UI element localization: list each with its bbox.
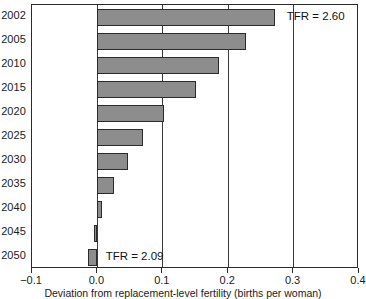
bar-row xyxy=(32,77,357,101)
y-tick-label-2030: 2030 xyxy=(0,154,26,165)
bar-row xyxy=(32,197,357,221)
x-tick-mark-4 xyxy=(292,268,293,273)
x-tick-label-4: 0.3 xyxy=(263,274,323,286)
annotation-2050: TFR = 2.09 xyxy=(106,250,164,262)
y-tick-label-2050: 2050 xyxy=(0,250,26,261)
y-tick-label-2002: 2002 xyxy=(0,10,26,21)
bar-row xyxy=(32,101,357,125)
annotation-2002: TFR = 2.60 xyxy=(287,10,345,22)
x-axis-title: Deviation from replacement-level fertili… xyxy=(0,288,366,299)
y-tick-label-2025: 2025 xyxy=(0,130,26,141)
bar-2015 xyxy=(97,81,196,98)
bar-row xyxy=(32,221,357,245)
bar-2025 xyxy=(97,129,143,146)
plot-area xyxy=(31,4,358,268)
bar-row xyxy=(32,29,357,53)
x-tick-mark-2 xyxy=(161,268,162,273)
bar-row xyxy=(32,125,357,149)
bar-2010 xyxy=(97,57,219,74)
x-tick-label-0: −0.1 xyxy=(1,274,61,286)
y-tick-label-2005: 2005 xyxy=(0,34,26,45)
bar-2002 xyxy=(97,9,275,26)
y-tick-label-2015: 2015 xyxy=(0,82,26,93)
x-tick-label-5: 0.4 xyxy=(328,274,366,286)
bar-2005 xyxy=(97,33,245,50)
x-tick-mark-5 xyxy=(358,268,359,273)
y-tick-label-2045: 2045 xyxy=(0,226,26,237)
bar-row xyxy=(32,149,357,173)
x-tick-mark-0 xyxy=(31,268,32,273)
bar-row xyxy=(32,245,357,269)
x-tick-label-3: 0.2 xyxy=(197,274,257,286)
y-tick-label-2040: 2040 xyxy=(0,202,26,213)
x-tick-label-2: 0.1 xyxy=(132,274,192,286)
x-tick-mark-1 xyxy=(96,268,97,273)
x-tick-label-1: 0.0 xyxy=(66,274,126,286)
bar-2045 xyxy=(94,225,97,242)
bar-2040 xyxy=(97,201,102,218)
y-tick-label-2010: 2010 xyxy=(0,58,26,69)
bar-2020 xyxy=(97,105,164,122)
y-tick-label-2020: 2020 xyxy=(0,106,26,117)
bar-row xyxy=(32,173,357,197)
bar-row xyxy=(32,53,357,77)
y-tick-label-2035: 2035 xyxy=(0,178,26,189)
x-tick-mark-3 xyxy=(227,268,228,273)
bar-2030 xyxy=(97,153,128,170)
x-axis-tick-marks xyxy=(31,268,358,273)
bar-2035 xyxy=(97,177,113,194)
bar-2050 xyxy=(88,249,97,266)
